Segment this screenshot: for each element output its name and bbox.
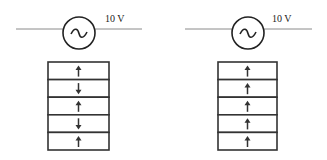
cell-stack [48,62,109,150]
stack-cell [218,80,277,98]
panel-left: 10 V [16,13,142,150]
stack-cell [48,115,109,133]
diagram-canvas: 10 V10 V [0,0,327,160]
stack-cell [48,62,109,80]
panel-right: 10 V [185,13,312,150]
stack-cell [218,132,277,150]
cell-stack [218,62,277,150]
ac-source-icon [232,17,264,49]
stack-cell [218,115,277,133]
stack-cell [48,132,109,150]
stack-cell [218,62,277,80]
stack-cell [48,97,109,115]
stack-cell [218,97,277,115]
stack-cell [48,80,109,98]
voltage-label: 10 V [105,13,125,24]
ac-source-icon [63,17,95,49]
voltage-label: 10 V [272,13,292,24]
